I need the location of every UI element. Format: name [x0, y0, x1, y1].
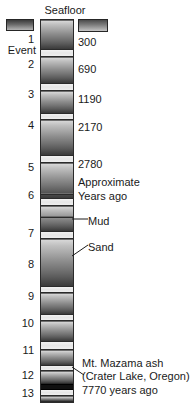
- approximate-caption-line-2: Years ago: [78, 190, 127, 202]
- event-number-13: 13: [0, 387, 34, 399]
- event-number-1: 1: [0, 33, 34, 45]
- event-number-6: 6: [0, 189, 34, 201]
- sand-swatch: [78, 19, 108, 32]
- hemipelagic-band-6: [41, 232, 73, 239]
- event-number-8: 8: [0, 258, 34, 270]
- year-label-1: 300: [78, 36, 96, 48]
- event-number-7: 7: [0, 227, 34, 239]
- ash-callout-line-2: (Crater Lake, Oregon): [82, 370, 190, 383]
- year-label-4: 2170: [78, 121, 102, 133]
- turbidite-band-6: [41, 206, 73, 232]
- event-number-4: 4: [0, 119, 34, 131]
- turbidite-band-8b-spacer: [41, 216, 73, 218]
- turbidite-band-1: [41, 20, 73, 50]
- ash-callout-line-1: Mt. Mazama ash: [82, 357, 163, 370]
- seafloor-label: Seafloor: [35, 4, 95, 17]
- event-axis-caption: Event: [0, 44, 36, 56]
- event-number-11: 11: [0, 344, 34, 356]
- turbidite-band-4: [41, 120, 73, 156]
- turbidite-band-7: [41, 239, 73, 287]
- year-label-5: 2780: [78, 158, 102, 170]
- mud-swatch: [6, 19, 34, 31]
- event-number-10: 10: [0, 317, 34, 329]
- turbidite-band-8-spacer: [41, 193, 73, 195]
- event-number-3: 3: [0, 88, 34, 100]
- hemipelagic-band-5: [41, 199, 73, 206]
- hemipelagic-band-4: [41, 156, 73, 163]
- hemipelagic-band-2: [41, 84, 73, 91]
- stratigraphic-column-figure: Seafloor: [0, 0, 194, 412]
- mud-callout-label: Mud: [88, 215, 109, 227]
- sand-callout-label: Sand: [88, 241, 114, 253]
- sand-leader-line: [70, 240, 90, 258]
- event-number-12: 12: [0, 369, 34, 381]
- year-label-3: 1190: [78, 93, 102, 105]
- turbidite-band-9: [41, 293, 73, 315]
- turbidite-band-2: [41, 57, 73, 84]
- event-number-5: 5: [0, 161, 34, 173]
- ash-callout-line-3: 7770 years ago: [82, 384, 158, 397]
- hemipelagic-band-10: [41, 342, 73, 350]
- turbidite-band-11: [41, 350, 73, 366]
- year-label-2: 690: [78, 63, 96, 75]
- event-number-2: 2: [0, 58, 34, 70]
- turbidite-band-12: [41, 371, 73, 384]
- hemipelagic-band-1: [41, 50, 73, 57]
- turbidite-band-3: [41, 91, 73, 114]
- approximate-caption-line-1: Approximate: [78, 176, 140, 188]
- event-number-9: 9: [0, 290, 34, 302]
- core-column: [40, 19, 74, 403]
- turbidite-band-10: [41, 321, 73, 342]
- turbidite-band-13: [41, 396, 73, 402]
